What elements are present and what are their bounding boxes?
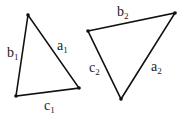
label-c2: c2	[89, 60, 100, 77]
label-c1: c1	[44, 98, 55, 115]
triangle-1-vertex-bottom-left	[14, 94, 18, 98]
triangle-2-vertex-top-right	[173, 11, 177, 15]
label-a2: a2	[151, 59, 162, 76]
two-triangles-diagram: a1 b1 c1 a2 b2 c2	[0, 0, 182, 118]
triangle-1-outline	[16, 15, 79, 96]
triangle-2-outline	[88, 13, 175, 99]
label-b2: b2	[117, 4, 129, 21]
triangle-1-vertex-top	[26, 13, 30, 17]
triangle-2-vertex-bottom	[119, 97, 123, 101]
triangle-2: a2 b2 c2	[86, 4, 177, 101]
label-b1: b1	[7, 45, 19, 62]
triangle-1: a1 b1 c1	[7, 13, 81, 115]
triangle-2-vertex-left	[86, 29, 90, 33]
label-a1: a1	[57, 38, 68, 55]
triangle-1-vertex-bottom-right	[77, 86, 81, 90]
